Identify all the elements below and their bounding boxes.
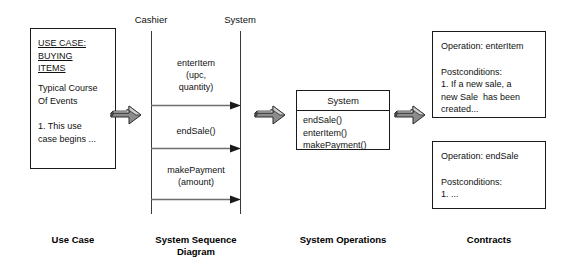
contract-box-enteritem: Operation: enterItem Postconditions: 1. …	[432, 31, 546, 118]
contract-postconditions-body-enteritem: 1. If a new sale, a new Sale has been cr…	[441, 78, 547, 116]
class-name-label: System	[297, 91, 389, 111]
arrow-ssd-to-operations	[254, 101, 286, 130]
arrow-operations-to-contracts	[394, 101, 426, 130]
message-label-endsale: endSale()	[153, 125, 239, 137]
arrow-usecase-to-ssd	[110, 101, 142, 130]
use-case-body: 1. This use case begins ...	[38, 120, 118, 145]
system-operations-class-box: System endSale() enterItem() makePayment…	[296, 90, 390, 150]
message-arrow-makepayment	[151, 190, 241, 199]
participant-label-cashier: Cashier	[121, 14, 181, 26]
caption-use-case: Use Case	[23, 234, 123, 246]
use-case-section-heading: Typical Course Of Events	[38, 82, 118, 107]
class-operations-list: endSale() enterItem() makePayment()	[303, 114, 367, 152]
participant-label-system: System	[210, 14, 270, 26]
message-label-enteritem: enterItem (upc, quantity)	[153, 57, 239, 93]
caption-system-sequence-diagram: System Sequence Diagram	[146, 234, 246, 258]
contract-operation-enteritem: Operation: enterItem	[441, 40, 547, 53]
message-label-makepayment: makePayment (amount)	[150, 164, 242, 188]
use-case-title: USE CASE: BUYING ITEMS	[38, 37, 114, 75]
contract-postconditions-heading-enteritem: Postconditions:	[441, 66, 547, 79]
use-case-box: USE CASE: BUYING ITEMS Typical Course Of…	[30, 28, 116, 169]
contract-postconditions-body-endsale: 1. ...	[441, 188, 547, 201]
caption-contracts: Contracts	[439, 234, 539, 246]
message-arrow-endsale	[151, 139, 241, 148]
message-arrow-enteritem	[151, 96, 241, 105]
contract-operation-endsale: Operation: endSale	[441, 150, 547, 163]
contract-postconditions-heading-endsale: Postconditions:	[441, 176, 547, 189]
contract-box-endsale: Operation: endSale Postconditions: 1. ..…	[432, 141, 546, 209]
caption-system-operations: System Operations	[293, 234, 393, 246]
diagram-canvas: USE CASE: BUYING ITEMS Typical Course Of…	[0, 0, 574, 276]
